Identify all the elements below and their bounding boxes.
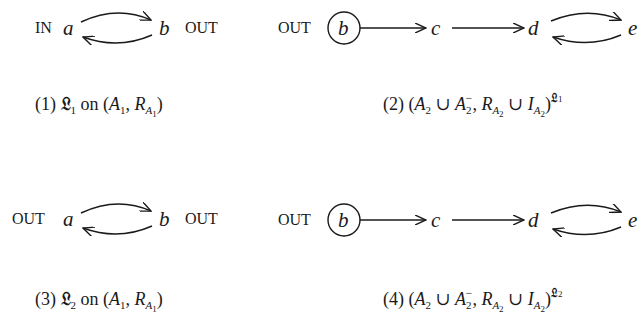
- status-label-a: IN: [35, 19, 52, 37]
- edges-layer: [0, 0, 643, 327]
- caption-1: (1) 𝔏1 on (A1, RA1): [35, 93, 163, 115]
- node-b: b: [159, 208, 170, 230]
- node-b: b: [338, 17, 349, 39]
- caption-4: (4) (A2 ∪ A2−, RA2 ∪ IA2)𝔏2: [383, 288, 562, 310]
- node-b: b: [338, 209, 349, 231]
- status-label-b: OUT: [278, 19, 311, 37]
- edge-e-to-d: [553, 35, 621, 43]
- edge-b-to-a: [83, 226, 152, 234]
- caption-2: (2) (A2 ∪ A2−, RA2 ∪ IA2)𝔏1: [383, 93, 562, 115]
- edge-d-to-e: [551, 205, 621, 213]
- status-label-b: OUT: [278, 211, 311, 229]
- node-a: a: [63, 17, 74, 39]
- node-c: c: [431, 209, 440, 231]
- node-d: d: [528, 209, 539, 231]
- node-e: e: [628, 209, 637, 231]
- edge-e-to-d: [553, 227, 621, 235]
- node-b: b: [159, 17, 170, 39]
- status-label-a: OUT: [12, 210, 45, 228]
- status-label-b: OUT: [185, 210, 218, 228]
- edge-b-to-a: [83, 35, 152, 43]
- node-a: a: [63, 208, 74, 230]
- node-e: e: [628, 17, 637, 39]
- caption-3: (3) 𝔏2 on (A1, RA1): [35, 288, 163, 310]
- node-c: c: [431, 17, 440, 39]
- edge-a-to-b: [81, 204, 151, 213]
- edge-d-to-e: [551, 13, 621, 21]
- status-label-b: OUT: [185, 19, 218, 37]
- edge-a-to-b: [81, 13, 151, 22]
- node-d: d: [528, 17, 539, 39]
